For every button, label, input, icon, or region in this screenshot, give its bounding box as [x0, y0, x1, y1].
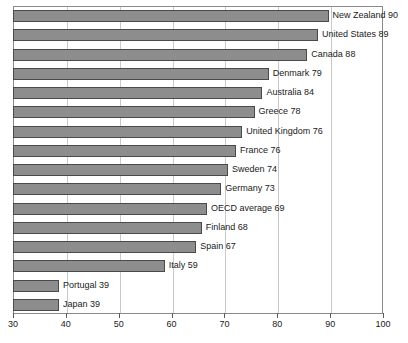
bar-row: Spain 67 — [14, 238, 382, 257]
x-tick-50 — [119, 313, 120, 318]
bar-chart: New Zealand 90United States 89Canada 88D… — [0, 0, 408, 343]
x-tick-label: 80 — [272, 319, 282, 329]
x-tick-100 — [383, 313, 384, 318]
x-tick-label: 40 — [61, 319, 71, 329]
bar-value-label: United Kingdom 76 — [242, 124, 323, 139]
bar-row: Finland 68 — [14, 219, 382, 238]
bar[interactable] — [13, 68, 269, 80]
bar[interactable] — [13, 126, 242, 138]
x-tick-label: 90 — [325, 319, 335, 329]
bar-row: United Kingdom 76 — [14, 123, 382, 142]
bar-row: New Zealand 90 — [14, 7, 382, 26]
bars-layer: New Zealand 90United States 89Canada 88D… — [14, 7, 382, 313]
bar[interactable] — [13, 260, 165, 272]
bar-value-label: Sweden 74 — [228, 162, 277, 177]
bar-row: Portugal 39 — [14, 277, 382, 296]
bar-value-label: Portugal 39 — [59, 278, 109, 293]
bar[interactable] — [13, 299, 59, 311]
x-tick-30 — [13, 313, 14, 318]
bar-row: United States 89 — [14, 26, 382, 45]
bar-value-label: Finland 68 — [202, 220, 248, 235]
bar-value-label: France 76 — [236, 143, 281, 158]
bar-row: Italy 59 — [14, 257, 382, 276]
bar[interactable] — [13, 10, 329, 22]
bar-row: France 76 — [14, 142, 382, 161]
bar[interactable] — [13, 29, 318, 41]
bar-value-label: Greece 78 — [255, 104, 301, 119]
bar[interactable] — [13, 241, 196, 253]
bar[interactable] — [13, 145, 236, 157]
bar-row: Sweden 74 — [14, 161, 382, 180]
bar-value-label: United States 89 — [318, 27, 389, 42]
x-tick-label: 100 — [375, 319, 390, 329]
bar[interactable] — [13, 106, 255, 118]
x-tick-label: 70 — [219, 319, 229, 329]
bar[interactable] — [13, 222, 202, 234]
bar[interactable] — [13, 49, 307, 61]
bar-value-label: Canada 88 — [307, 47, 355, 62]
x-tick-80 — [277, 313, 278, 318]
bar-row: Germany 73 — [14, 180, 382, 199]
bar-row: Greece 78 — [14, 103, 382, 122]
x-tick-70 — [224, 313, 225, 318]
bar-row: Canada 88 — [14, 46, 382, 65]
bar-value-label: Germany 73 — [221, 181, 275, 196]
bar-row: OECD average 69 — [14, 200, 382, 219]
bar[interactable] — [13, 164, 228, 176]
plot-area: New Zealand 90United States 89Canada 88D… — [13, 6, 383, 314]
x-tick-label: 30 — [8, 319, 18, 329]
bar[interactable] — [13, 203, 207, 215]
bar-value-label: Japan 39 — [59, 297, 100, 312]
bar[interactable] — [13, 87, 262, 99]
x-axis-tick-labels: 30405060708090100 — [0, 319, 408, 335]
bar-row: Denmark 79 — [14, 65, 382, 84]
x-tick-90 — [330, 313, 331, 318]
bar-value-label: Spain 67 — [196, 239, 236, 254]
x-tick-40 — [66, 313, 67, 318]
bar-value-label: OECD average 69 — [207, 201, 285, 216]
x-tick-label: 60 — [167, 319, 177, 329]
bar-value-label: Australia 84 — [262, 85, 314, 100]
bar[interactable] — [13, 280, 59, 292]
bar-value-label: Denmark 79 — [269, 66, 322, 81]
bar-row: Australia 84 — [14, 84, 382, 103]
bar-value-label: Italy 59 — [165, 258, 198, 273]
x-tick-label: 50 — [114, 319, 124, 329]
bar-value-label: New Zealand 90 — [329, 8, 399, 23]
x-tick-60 — [172, 313, 173, 318]
bar[interactable] — [13, 183, 221, 195]
